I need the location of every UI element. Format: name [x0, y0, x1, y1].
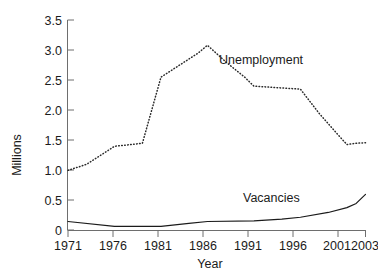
- y-tick-label: 3.0: [45, 44, 62, 58]
- x-tick-label: 1996: [279, 239, 307, 253]
- x-axis-title: Year: [197, 257, 222, 271]
- y-tick-label: 0.5: [45, 194, 62, 208]
- x-tick-label: 1976: [99, 239, 127, 253]
- series-line-unemployment: [68, 45, 366, 170]
- x-tick-label: 1991: [234, 239, 262, 253]
- x-tick-label: 1971: [54, 239, 82, 253]
- y-axis-title: Millions: [10, 134, 24, 176]
- y-tick-label: 2.5: [45, 74, 62, 88]
- y-tick-label: 0: [55, 224, 62, 238]
- y-axis-tick-labels: 3.5 3.0 2.5 2.0 1.5 1.0 0.5 0: [45, 14, 62, 238]
- y-tick-label: 3.5: [45, 14, 62, 28]
- x-tick-label: 2003: [351, 239, 378, 253]
- series-label-vacancies: Vacancies: [243, 191, 300, 205]
- y-tick-label: 1.0: [45, 164, 62, 178]
- x-axis-tick-labels: 1971 1976 1981 1986 1991 1996 2001 2003: [54, 239, 378, 253]
- x-tick-label: 1981: [144, 239, 172, 253]
- chart-container: Millions 3.5 3.0 2.5 2.0 1.5 1.0 0.5 0: [0, 0, 378, 273]
- y-tick-label: 1.5: [45, 134, 62, 148]
- x-axis-ticks: [68, 231, 366, 238]
- line-chart: Millions 3.5 3.0 2.5 2.0 1.5 1.0 0.5 0: [0, 0, 378, 273]
- y-axis-ticks: [68, 20, 75, 230]
- series-line-vacancies: [68, 194, 366, 226]
- x-tick-label: 1986: [189, 239, 217, 253]
- y-tick-label: 2.0: [45, 104, 62, 118]
- series-label-unemployment: Unemployment: [219, 53, 304, 67]
- x-tick-label: 2001: [323, 239, 351, 253]
